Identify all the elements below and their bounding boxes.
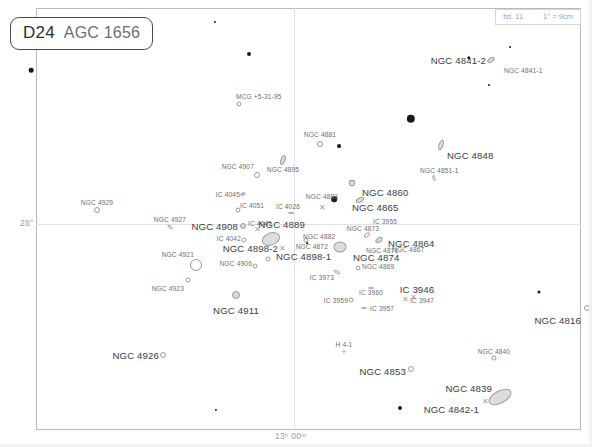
galaxy-symbol-sliver [432, 175, 437, 182]
object-label: IC 3960 [359, 289, 383, 296]
object-label: IC 4051 [240, 202, 264, 209]
galaxy-symbol-ellipse [334, 242, 347, 253]
object-label: NGC 4927 [154, 216, 186, 223]
object-label: NGC 4860 [362, 187, 409, 198]
faint-object-marker-x: ✕ [482, 398, 489, 406]
galaxy-symbol-circle [232, 291, 240, 299]
object-label: NGC 4842-1 [424, 404, 479, 415]
object-label: IC 3973 [310, 274, 334, 281]
object-label: NGC 4881 [304, 131, 336, 138]
object-label: NGC 4898-1 [276, 251, 331, 262]
field-star [29, 68, 34, 73]
field-star [214, 21, 216, 23]
faint-object-marker-x: ✕ [402, 296, 409, 304]
object-label: NGC 4873 [347, 225, 379, 232]
galaxy-symbol-ellipse [486, 56, 495, 65]
object-label: NGC 4889 [258, 219, 305, 230]
galaxy-symbol-sliver [288, 212, 294, 214]
object-label: NGC 4906 [220, 260, 252, 267]
object-label: NGC 4851-1 [420, 167, 459, 174]
planetary-nebula-marker: + [341, 348, 346, 357]
galaxy-symbol-ellipse [374, 236, 383, 245]
objects-layer: MCG +5-31-95NGC 4841-2NGC 4841-1NGC 4881… [0, 0, 592, 447]
object-label: NGC 4898-2 [223, 243, 278, 254]
faint-object-marker-x: ✕ [319, 204, 326, 212]
object-label: NGC 4895 [267, 166, 299, 173]
field-star [537, 290, 540, 293]
galaxy-symbol-circle [240, 223, 246, 229]
field-star [215, 409, 217, 411]
galaxy-symbol-ellipse [279, 154, 287, 165]
object-label: NGC 4911 [213, 305, 259, 316]
galaxy-symbol-sliver [363, 231, 371, 239]
object-label: NGC 4926 [112, 350, 159, 361]
object-label: NGC 4841-2 [431, 55, 486, 66]
galaxy-symbol-circle [317, 141, 323, 147]
object-label: NGC 4841-1 [504, 67, 543, 74]
object-label: NGC 4929 [81, 199, 113, 206]
object-label: NGC 4865 [352, 202, 399, 213]
object-label: NGC 4839 [445, 383, 492, 394]
object-label: NGC 4869 [362, 263, 394, 270]
galaxy-symbol-circle [160, 352, 166, 358]
galaxy-symbol-circle [254, 172, 260, 178]
galaxy-symbol-circle [356, 266, 361, 271]
field-star [247, 52, 251, 56]
chart-title-plate: D24 AGC 1656 [10, 17, 153, 50]
galaxy-symbol-circle [190, 259, 202, 271]
object-label: NGC 4872 [296, 243, 328, 250]
object-label: IC 3957 [370, 305, 394, 312]
object-label: NGC 4882 [303, 233, 335, 240]
object-label: NGC 4840 [478, 348, 510, 355]
galaxy-symbol-circle [408, 366, 414, 372]
chart-designation: AGC 1656 [64, 24, 140, 42]
object-label: IC 3947 [410, 297, 434, 304]
galaxy-symbol-circle [492, 356, 497, 361]
object-label: NGC 4848 [447, 150, 494, 161]
field-star [337, 144, 341, 148]
object-label: H 4-1 [336, 341, 353, 348]
galaxy-symbol-circle [186, 278, 191, 283]
field-star [398, 406, 402, 410]
galaxy-symbol-ellipse [437, 139, 445, 151]
scale-plate: fst. 11 1° = 9cm [495, 9, 581, 25]
object-label: NGC 4907 [222, 163, 254, 170]
object-label: NGC 4816 [534, 315, 581, 326]
object-label: NGC 4853 [359, 366, 406, 377]
star-chart: 28° 13ʰ 00ᵐ MCG +5-31-95NGC 4841-2NGC 48… [0, 0, 592, 447]
object-label: IC 3946 [400, 284, 435, 295]
object-label: IC 4045 [216, 191, 240, 198]
field-star [509, 46, 511, 48]
object-label: NGC 4923 [152, 285, 184, 292]
object-label: NGC 4883 [306, 193, 338, 200]
limiting-magnitude-label: fst. 11 [503, 12, 523, 21]
galaxy-symbol-sliver [167, 224, 174, 230]
object-label: NGC 4871 [366, 247, 398, 254]
object-label: IC 3955 [373, 218, 397, 225]
galaxy-symbol-circle [237, 102, 242, 107]
galaxy-symbol-circle [253, 264, 258, 269]
field-star [488, 84, 490, 86]
galaxy-symbol-ellipse [240, 192, 246, 197]
object-label: NGC 4908 [191, 221, 238, 232]
galaxy-symbol-circle [584, 305, 590, 311]
galaxy-symbol-sliver [333, 269, 341, 275]
field-star [407, 115, 415, 123]
galaxy-symbol-circle [349, 298, 354, 303]
object-label: IC 4042 [217, 235, 241, 242]
object-label: NGC 4921 [162, 251, 194, 258]
galaxy-symbol-circle [266, 257, 271, 262]
chart-code: D24 [23, 23, 55, 43]
object-label: IC 4026 [276, 203, 300, 210]
plate-scale-label: 1° = 9cm [543, 12, 573, 21]
galaxy-symbol-sliver [361, 307, 367, 309]
galaxy-symbol-circle [349, 180, 356, 187]
galaxy-symbol-circle [94, 207, 100, 213]
object-label: IC 3959 [324, 297, 348, 304]
object-label: MCG +5-31-95 [236, 93, 282, 100]
